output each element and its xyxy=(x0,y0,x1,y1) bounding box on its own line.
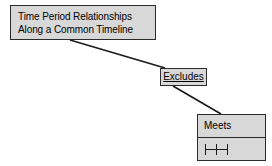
interval-span-first xyxy=(206,149,216,150)
root-node-title-line-1: Time Period Relationships xyxy=(18,10,149,23)
leaf-node-name: Meets xyxy=(204,120,231,132)
relationship-label: Excludes xyxy=(163,71,204,83)
root-node-title-line-2: Along a Common Timeline xyxy=(18,23,149,36)
leaf-node-symbol-compartment xyxy=(198,138,265,160)
interval-tick-end xyxy=(227,144,228,155)
interval-span-second xyxy=(217,149,227,150)
relationship-node-excludes[interactable]: Excludes xyxy=(160,68,207,86)
leaf-node-name-compartment: Meets xyxy=(198,115,265,137)
connector-root-to-excludes xyxy=(70,40,165,68)
interval-meets-icon xyxy=(205,144,231,155)
root-node[interactable]: Time Period Relationships Along a Common… xyxy=(10,5,156,40)
diagram-canvas: Time Period Relationships Along a Common… xyxy=(0,0,272,166)
connector-excludes-to-meets xyxy=(173,86,221,114)
leaf-node-meets[interactable]: Meets xyxy=(197,114,266,161)
